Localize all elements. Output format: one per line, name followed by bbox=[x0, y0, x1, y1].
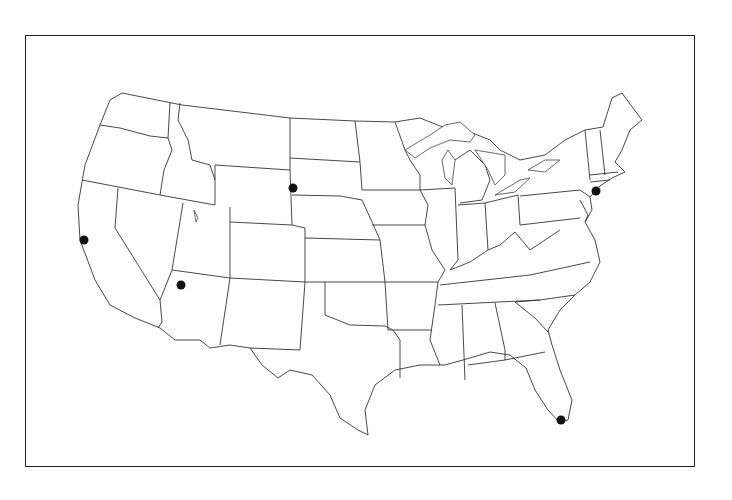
marker-miami[interactable] bbox=[557, 416, 566, 425]
marker-phoenix[interactable] bbox=[177, 281, 186, 290]
us-outline bbox=[78, 93, 642, 435]
marker-new-york-city[interactable] bbox=[592, 187, 601, 196]
us-outline-map bbox=[0, 0, 732, 500]
marker-south-dakota-west[interactable] bbox=[289, 184, 298, 193]
marker-san-francisco[interactable] bbox=[80, 236, 89, 245]
